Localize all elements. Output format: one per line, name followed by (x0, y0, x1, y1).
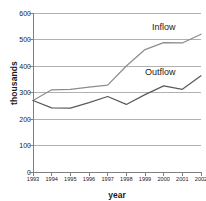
x-tick-label: 1994 (43, 176, 61, 183)
x-tick-label: 1997 (99, 176, 117, 183)
x-tick-label: 2001 (173, 176, 191, 183)
series-label-inflow: Inflow (152, 22, 176, 32)
x-tick-label: 2000 (155, 176, 173, 183)
line-chart: 600 500 400 300 200 100 0 thousands (0, 0, 206, 201)
x-tick-label: 1998 (117, 176, 135, 183)
x-tick-label: 1993 (24, 176, 42, 183)
x-tick-label: 1999 (136, 176, 154, 183)
series-label-outflow: Outflow (145, 67, 176, 77)
gridlines (33, 13, 201, 146)
x-tick-label: 1996 (80, 176, 98, 183)
x-tick-label: 2002 (192, 176, 206, 183)
x-tick-label: 1995 (61, 176, 79, 183)
series-line-outflow (33, 76, 201, 108)
x-axis-title: year (33, 190, 201, 200)
y-axis-line (29, 13, 33, 172)
